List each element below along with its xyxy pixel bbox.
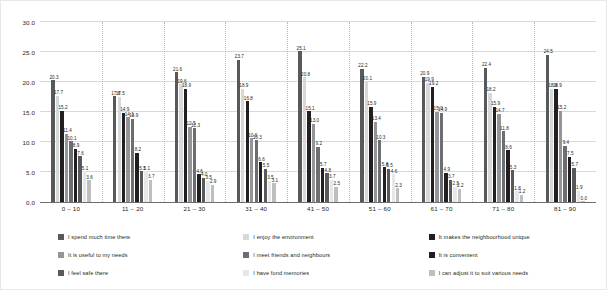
bar[interactable]: 8.6 (506, 150, 509, 202)
legend-swatch (243, 270, 249, 276)
bar[interactable]: 1.2 (520, 195, 523, 202)
bar[interactable]: 5.8 (383, 167, 386, 202)
bar-value-label: 25.1 (297, 46, 306, 51)
legend-item-label: It is convenient (439, 252, 478, 258)
bar[interactable]: 18.9 (241, 89, 244, 202)
legend-swatch (429, 234, 435, 240)
bar[interactable]: 19.6 (179, 84, 182, 202)
bar[interactable]: 10.6 (250, 138, 253, 202)
bar-group-bars: 23.718.916.810.610.36.65.53.53.1 (225, 22, 287, 202)
bar[interactable]: 19.2 (431, 87, 434, 202)
bar[interactable]: 14.9 (440, 113, 443, 202)
bar-group-bars: 22.418.215.914.711.88.65.31.81.2 (472, 22, 534, 202)
x-axis-label: 11 – 20 (102, 205, 164, 221)
bar[interactable]: 15.2 (559, 111, 562, 202)
bar[interactable]: 2.2 (458, 189, 461, 202)
bar-value-label: 22.4 (482, 63, 491, 68)
bar[interactable]: 2.9 (211, 185, 214, 202)
bar[interactable]: 15.9 (493, 107, 496, 202)
bar[interactable]: 19.9 (426, 83, 429, 202)
bar[interactable]: 4.6 (392, 174, 395, 202)
bar[interactable]: 5.1 (140, 171, 143, 202)
x-axis-label: 0 – 10 (40, 205, 102, 221)
bar-group: 25.120.815.113.09.25.74.83.72.5 (287, 22, 349, 202)
x-axis-labels: 0 – 1011 – 2021 – 3031 – 4041 – 5051 – 6… (40, 205, 596, 221)
bar-value-label: 5.3 (510, 165, 517, 170)
bar-value-label: 10.3 (253, 135, 262, 140)
bar[interactable]: 20.9 (422, 77, 425, 202)
legend-item[interactable]: I can adjust it to suit various needs (411, 264, 596, 282)
bar-value-label: 18.9 (239, 84, 248, 89)
legend-item[interactable]: I spend much time there (40, 228, 225, 246)
bar-group-bars: 24.518.918.915.29.47.55.71.90.0 (534, 22, 596, 202)
bar[interactable]: 3.6 (87, 180, 90, 202)
bar[interactable]: 14.9 (122, 113, 125, 202)
bar[interactable]: 2.5 (453, 187, 456, 202)
bar[interactable]: 3.1 (272, 183, 275, 202)
bar[interactable]: 11.4 (65, 134, 68, 202)
bar-group: 22.418.215.914.711.88.65.31.81.2 (472, 22, 534, 202)
bar-value-label: 18.9 (553, 84, 562, 89)
bar[interactable]: 16.8 (246, 101, 249, 202)
legend-item[interactable]: I have fond memories (225, 264, 410, 282)
bar[interactable]: 14.1 (126, 117, 129, 202)
bar[interactable]: 13.0 (312, 124, 315, 202)
bar[interactable]: 7.6 (78, 156, 81, 202)
bar[interactable]: 21.6 (175, 72, 178, 202)
bar[interactable]: 23.7 (237, 60, 240, 202)
bar[interactable]: 22.2 (360, 69, 363, 202)
bar[interactable]: 10.1 (69, 141, 72, 202)
bar[interactable]: 3.5 (206, 181, 209, 202)
bar-value-label: 16.8 (244, 96, 253, 101)
legend-item[interactable]: I meet friends and neighbours (225, 246, 410, 264)
bar[interactable]: 5.5 (387, 169, 390, 202)
bar[interactable]: 10.3 (378, 140, 381, 202)
bar-value-label: 2.3 (395, 183, 402, 188)
bar[interactable]: 18.9 (184, 89, 187, 202)
legend-item[interactable]: It is useful to my needs (40, 246, 225, 264)
bar[interactable]: 17.7 (56, 96, 59, 202)
bar-group-bars: 25.120.815.113.09.25.74.83.72.5 (287, 22, 349, 202)
bar[interactable]: 18.9 (550, 89, 553, 202)
bar[interactable]: 24.5 (546, 55, 549, 202)
x-axis-label: 31 – 40 (225, 205, 287, 221)
bar[interactable]: 12.5 (188, 127, 191, 202)
bar[interactable]: 5.7 (321, 168, 324, 202)
bar[interactable]: 10.3 (255, 140, 258, 202)
bar-value-label: 3.7 (329, 175, 336, 180)
bar-value-label: 2.2 (457, 184, 464, 189)
legend-item[interactable]: I feel safe there (40, 264, 225, 282)
bar-groups: 20.317.715.211.410.18.97.65.13.617.617.5… (40, 22, 596, 202)
bar[interactable]: 4.0 (202, 178, 205, 202)
bar[interactable]: 17.6 (113, 96, 116, 202)
bar[interactable]: 3.5 (268, 181, 271, 202)
bar-value-label: 3.7 (448, 175, 455, 180)
legend-item[interactable]: It makes the neighbourhood unique (411, 228, 596, 246)
bar[interactable]: 17.5 (118, 97, 121, 202)
bar[interactable]: 0.0 (581, 201, 584, 202)
bar[interactable]: 18.2 (488, 93, 491, 202)
bar[interactable]: 15.1 (307, 111, 310, 202)
bar[interactable]: 4.6 (197, 174, 200, 202)
bar[interactable]: 3.7 (149, 180, 152, 202)
bar[interactable]: 20.8 (303, 77, 306, 202)
bar[interactable]: 8.2 (135, 153, 138, 202)
bar[interactable]: 2.3 (396, 188, 399, 202)
bar[interactable]: 12.3 (193, 128, 196, 202)
legend-item[interactable]: It is convenient (411, 246, 596, 264)
bar[interactable]: 15.2 (60, 111, 63, 202)
bar[interactable]: 20.1 (365, 81, 368, 202)
bar[interactable]: 20.3 (51, 80, 54, 202)
bar-group: 22.220.115.913.410.35.85.54.62.3 (349, 22, 411, 202)
bar[interactable]: 2.5 (334, 187, 337, 202)
bar[interactable]: 9.2 (316, 147, 319, 202)
bar-value-label: 2.5 (333, 182, 340, 187)
bar[interactable]: 13.9 (131, 119, 134, 202)
legend-item[interactable]: I enjoy the environment (225, 228, 410, 246)
bar[interactable]: 15.0 (435, 112, 438, 202)
bar-value-label: 7.5 (567, 152, 574, 157)
bar[interactable]: 11.8 (502, 131, 505, 202)
bar[interactable]: 8.9 (74, 149, 77, 202)
bar-value-label: 19.2 (429, 82, 438, 87)
